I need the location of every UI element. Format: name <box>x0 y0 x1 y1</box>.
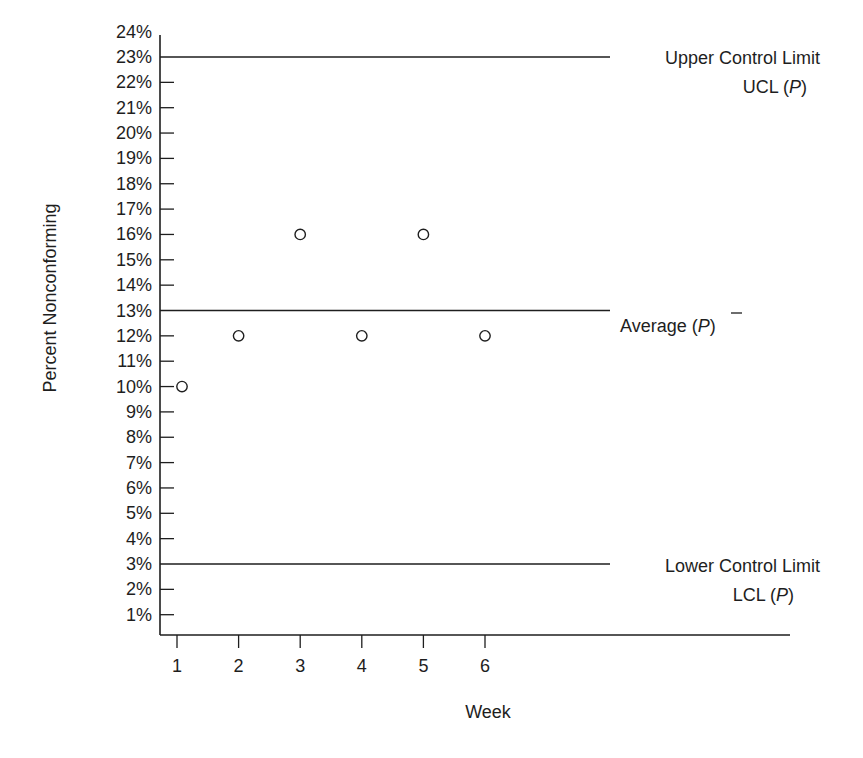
y-tick-label: 2% <box>126 579 152 599</box>
y-tick-label: 6% <box>126 478 152 498</box>
ucl-label-line1: Upper Control Limit <box>665 48 820 68</box>
y-tick-label: 21% <box>116 98 152 118</box>
lcl-label-line2: LCL (P) <box>733 585 794 605</box>
y-tick-label: 8% <box>126 427 152 447</box>
y-tick-label: 7% <box>126 453 152 473</box>
y-tick-label: 14% <box>116 275 152 295</box>
data-point <box>357 331 367 341</box>
x-axis-ticks: 123456 <box>172 635 490 676</box>
data-point <box>177 381 187 391</box>
x-tick-label: 4 <box>357 656 367 676</box>
y-tick-label: 22% <box>116 72 152 92</box>
y-tick-label: 19% <box>116 148 152 168</box>
x-axis-title: Week <box>465 702 512 722</box>
y-tick-label: 3% <box>126 554 152 574</box>
y-axis-title: Percent Nonconforming <box>40 203 60 392</box>
y-tick-label: 10% <box>116 377 152 397</box>
y-tick-label: 17% <box>116 199 152 219</box>
y-tick-label: 4% <box>126 529 152 549</box>
x-tick-label: 6 <box>480 656 490 676</box>
y-tick-label: 11% <box>117 351 152 371</box>
ucl-label-line2: UCL (P) <box>743 77 807 97</box>
y-tick-label: 23% <box>116 47 152 67</box>
x-tick-label: 1 <box>172 656 182 676</box>
data-point <box>233 331 243 341</box>
control-limit-lines <box>160 57 610 564</box>
y-tick-label: 12% <box>116 326 152 346</box>
y-tick-label: 20% <box>116 123 152 143</box>
y-tick-label: 18% <box>116 174 152 194</box>
y-tick-label: 13% <box>116 301 152 321</box>
x-tick-label: 3 <box>295 656 305 676</box>
x-tick-label: 5 <box>418 656 428 676</box>
y-axis-ticks: 1%2%3%4%5%6%7%8%9%10%11%12%13%14%15%16%1… <box>116 22 174 625</box>
control-chart: 1%2%3%4%5%6%7%8%9%10%11%12%13%14%15%16%1… <box>0 0 863 758</box>
data-point <box>418 229 428 239</box>
y-tick-label: 16% <box>116 224 152 244</box>
y-tick-label: 24% <box>116 22 152 42</box>
data-point <box>480 331 490 341</box>
y-tick-label: 9% <box>126 402 152 422</box>
x-tick-label: 2 <box>234 656 244 676</box>
y-tick-label: 5% <box>126 503 152 523</box>
data-point <box>295 229 305 239</box>
average-label: Average (P) <box>620 316 716 336</box>
y-tick-label: 15% <box>116 250 152 270</box>
lcl-label-line1: Lower Control Limit <box>665 556 820 576</box>
y-tick-label: 1% <box>126 605 152 625</box>
